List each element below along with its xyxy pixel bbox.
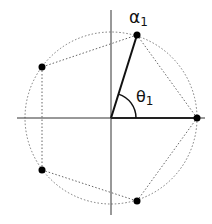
point-4 [134, 198, 141, 205]
point-2 [39, 64, 46, 71]
point-5 [194, 115, 201, 122]
point-3 [39, 167, 46, 174]
alpha-label: α1 [129, 7, 148, 29]
polygon-angle-diagram: α1 θ1 [0, 0, 212, 224]
theta-label: θ1 [136, 87, 153, 108]
angle-arc [119, 94, 137, 118]
point-alpha1 [134, 32, 141, 39]
